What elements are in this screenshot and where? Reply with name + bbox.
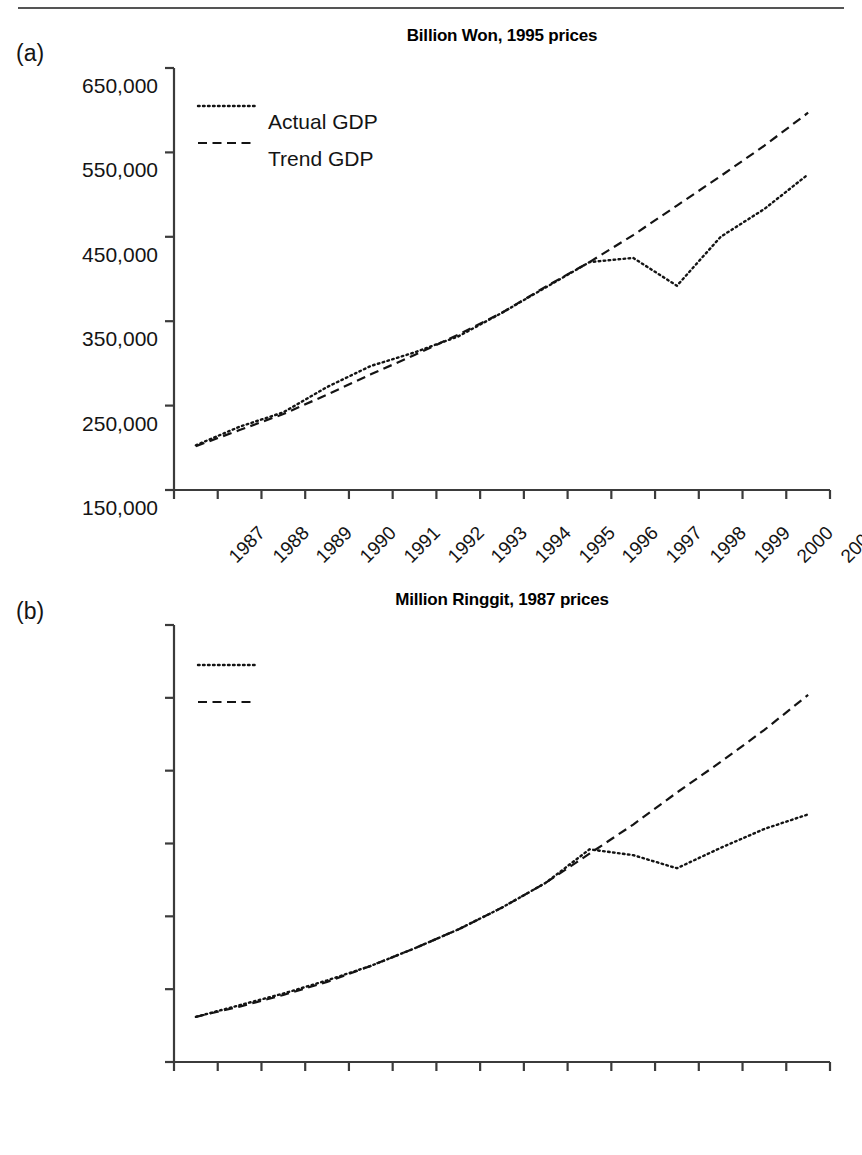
series-line-trend-gdp [196,695,808,1017]
plot-area-a [0,18,862,578]
y-tick-label: 250,000 [0,412,158,436]
top-divider-rule [18,7,844,9]
legend-label: Actual GDP [268,110,378,134]
chart-canvas-b [0,588,862,1148]
y-tick-label: 150,000 [0,496,158,520]
series-line-actual-gdp [196,814,808,1016]
y-tick-label: 550,000 [0,158,158,182]
chart-panel-a: (a) Billion Won, 1995 prices 150,000250,… [0,18,862,578]
plot-area-b [0,588,862,1148]
y-tick-label: 450,000 [0,243,158,267]
y-tick-label: 350,000 [0,327,158,351]
chart-canvas-a [0,18,862,578]
y-tick-label: 650,000 [0,74,158,98]
chart-panel-b: (b) Million Ringgit, 1987 prices 50,0001… [0,588,862,1148]
legend-label: Trend GDP [268,147,373,171]
series-line-actual-gdp [196,174,808,445]
